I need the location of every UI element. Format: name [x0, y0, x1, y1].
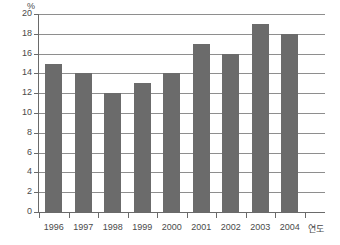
y-axis-tick [34, 113, 38, 114]
x-axis-tick-label: 1997 [67, 222, 99, 232]
x-axis-tick [69, 213, 70, 218]
x-axis-tick [157, 213, 158, 218]
y-axis-tick [34, 73, 38, 74]
bar [134, 83, 151, 212]
y-axis-tick-label: 8 [6, 128, 32, 137]
y-axis-tick-label: 2 [6, 187, 32, 196]
y-axis-tick [34, 172, 38, 173]
x-axis-tick-label: 2003 [244, 222, 276, 232]
x-axis-line [38, 212, 306, 213]
x-axis-tick [275, 213, 276, 218]
bar [222, 54, 239, 212]
y-axis-tick [34, 153, 38, 154]
y-axis-tick [34, 34, 38, 35]
y-axis-tick-label: 6 [6, 148, 32, 157]
y-axis-tick-label: 14 [6, 68, 32, 77]
x-axis-tick-label: 1999 [126, 222, 158, 232]
x-axis-unit-label: 연도 [308, 224, 324, 234]
x-axis-tick [187, 213, 188, 218]
bar [45, 64, 62, 213]
bar-series [38, 14, 325, 212]
bar [104, 93, 121, 212]
bar [252, 24, 269, 212]
y-axis-tick [34, 93, 38, 94]
y-axis-tick-labels: 02468101214161820 [0, 0, 32, 245]
bar-chart: % 02468101214161820 19961997199819992000… [0, 0, 340, 245]
y-axis-tick-label: 18 [6, 29, 32, 38]
y-axis-tick-label: 4 [6, 167, 32, 176]
x-axis-tick [128, 213, 129, 218]
y-axis-tick [34, 212, 38, 213]
x-axis-tick [98, 213, 99, 218]
x-axis-tick-label: 1996 [38, 222, 70, 232]
x-axis-tick-label: 1998 [97, 222, 129, 232]
y-axis-tick [34, 192, 38, 193]
bar [75, 73, 92, 212]
x-axis-tick [305, 213, 306, 218]
x-axis-tick [39, 213, 40, 218]
x-axis-tick-label: 2001 [185, 222, 217, 232]
y-axis-tick-label: 10 [6, 108, 32, 117]
y-axis-tick-label: 20 [6, 9, 32, 18]
y-axis-tick [34, 54, 38, 55]
x-axis-tick [216, 213, 217, 218]
x-axis-tick-labels: 199619971998199920002001200220032004 [38, 222, 325, 238]
bar [193, 44, 210, 212]
y-axis-tick-label: 12 [6, 88, 32, 97]
y-axis-tick [34, 133, 38, 134]
y-axis-tick-label: 0 [6, 207, 32, 216]
y-axis-tick-label: 16 [6, 49, 32, 58]
x-axis-tick-label: 2004 [274, 222, 306, 232]
x-axis-tick [246, 213, 247, 218]
bar [163, 73, 180, 212]
x-axis-tick-label: 2002 [215, 222, 247, 232]
bar [281, 34, 298, 212]
y-axis-tick [34, 14, 38, 15]
x-axis-tick-label: 2000 [156, 222, 188, 232]
